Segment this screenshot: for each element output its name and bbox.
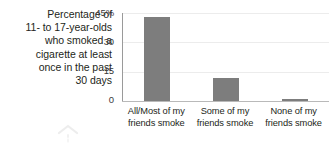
x-tick-label: None of my friends smoke [259, 106, 328, 129]
bar-slot [260, 13, 329, 101]
caption-line: 11- to 17-year-olds [4, 21, 112, 34]
x-tick-label-line: All/Most of my [122, 106, 191, 118]
bar-slot [192, 13, 261, 101]
y-tick-label: 45% [74, 7, 114, 18]
x-tick-label-line: Some of my [191, 106, 260, 118]
x-tick-label-line: friends smoke [259, 118, 328, 130]
plot-area: 45% 30 15 0 [122, 13, 329, 102]
bar [144, 17, 170, 101]
x-tick-label-line: None of my [259, 106, 328, 118]
chart-figure: Percentage of 11- to 17-year-olds who sm… [0, 0, 333, 148]
x-tick-label-line: friends smoke [191, 118, 260, 130]
x-tick-label: All/Most of my friends smoke [122, 106, 191, 129]
x-axis-labels: All/Most of my friends smoke Some of my … [122, 106, 329, 136]
caption-line: cigarette at least [4, 48, 112, 61]
bar [282, 99, 308, 101]
bar [213, 78, 239, 101]
y-tick-label: 15 [74, 65, 114, 76]
y-tick-label: 30 [74, 36, 114, 47]
chevron-up-icon [57, 124, 79, 144]
bar-slot [123, 13, 192, 101]
x-axis-line [122, 101, 329, 102]
x-tick-label-line: friends smoke [122, 118, 191, 130]
bar-series [123, 13, 329, 101]
x-tick-label: Some of my friends smoke [191, 106, 260, 129]
y-tick-label: 0 [74, 94, 114, 105]
